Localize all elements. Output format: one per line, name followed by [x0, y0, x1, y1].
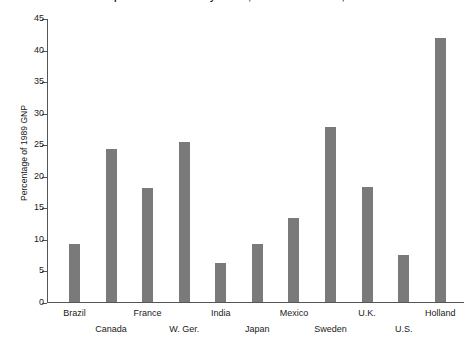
bar	[142, 188, 153, 302]
bar	[215, 263, 226, 302]
y-tick-label: 40	[34, 45, 44, 55]
x-axis-label: Canada	[95, 324, 127, 334]
bar	[106, 149, 117, 302]
y-axis-title: Percentage of 1989 GNP	[19, 53, 29, 253]
bar	[362, 187, 373, 302]
y-tick-label: 45	[34, 13, 44, 23]
y-tick-label: 20	[34, 171, 44, 181]
bar	[435, 38, 446, 302]
bar	[252, 244, 263, 302]
y-tick-label: 30	[34, 108, 44, 118]
x-axis-label: Holland	[425, 308, 456, 318]
bar	[398, 255, 409, 302]
y-tick-label: 5	[39, 265, 44, 275]
x-axis-label: W. Ger.	[169, 324, 199, 334]
x-axis-label: Brazil	[63, 308, 86, 318]
x-axis-label: U.S.	[395, 324, 413, 334]
y-axis-line	[47, 19, 48, 303]
y-tick-label: 10	[34, 234, 44, 244]
bar	[69, 244, 80, 302]
x-axis-label: India	[211, 308, 231, 318]
x-axis-label: Mexico	[280, 308, 309, 318]
chart-title: Expenditures on Military Goods, Selected…	[0, 0, 471, 2]
x-axis-label: France	[134, 308, 162, 318]
y-tick-label: 25	[34, 139, 44, 149]
y-tick-label: 35	[34, 76, 44, 86]
y-tick-label: 0	[39, 297, 44, 307]
y-tick-label: 15	[34, 202, 44, 212]
bar	[179, 142, 190, 302]
x-axis-label: Japan	[245, 324, 270, 334]
plot-area: 454035302520151050	[47, 19, 464, 303]
bar	[288, 218, 299, 302]
x-axis-line	[47, 302, 464, 303]
x-axis-label: Sweden	[314, 324, 347, 334]
x-axis-label: U.K.	[358, 308, 376, 318]
bar	[325, 127, 336, 302]
